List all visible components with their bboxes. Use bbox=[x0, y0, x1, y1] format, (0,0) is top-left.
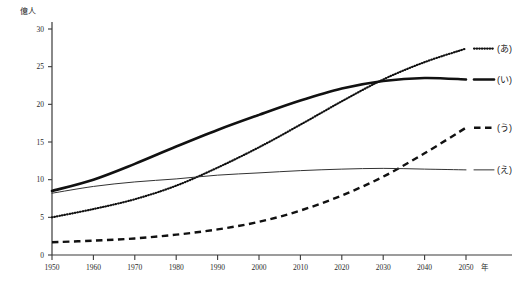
x-tick-label: 2000 bbox=[252, 263, 267, 272]
x-tick-label: 2010 bbox=[293, 263, 308, 272]
x-tick-label: 1980 bbox=[169, 263, 184, 272]
x-tick-group: 1950196019701980199020002010202020302040… bbox=[45, 255, 490, 272]
legend-label-1: (あ) bbox=[497, 44, 512, 54]
x-tick-label: 2030 bbox=[376, 263, 391, 272]
axes-group bbox=[52, 22, 512, 255]
legend-label-4: (え) bbox=[497, 165, 512, 175]
y-tick-group: 051015202530 bbox=[37, 25, 53, 260]
y-tick-label: 25 bbox=[37, 62, 45, 71]
x-tick-label: 2040 bbox=[417, 263, 432, 272]
y-tick-label: 0 bbox=[40, 251, 44, 260]
series-line-2 bbox=[52, 78, 466, 191]
y-axis-unit-label: 億人 bbox=[20, 6, 36, 16]
x-tick-label: 1990 bbox=[210, 263, 225, 272]
x-tick-label: 1970 bbox=[127, 263, 142, 272]
x-tick-label: 1960 bbox=[86, 263, 101, 272]
x-tick-label: 2050 bbox=[459, 263, 474, 272]
x-tick-label: 2020 bbox=[334, 263, 349, 272]
y-tick-label: 10 bbox=[37, 175, 45, 184]
series-line-3 bbox=[52, 128, 466, 243]
chart-canvas: 051015202530 195019601970198019902000201… bbox=[0, 0, 517, 292]
population-line-chart: 051015202530 195019601970198019902000201… bbox=[0, 0, 517, 292]
y-tick-label: 5 bbox=[40, 213, 44, 222]
x-axis-unit-label: 年 bbox=[481, 262, 489, 272]
legend-label-2: (い) bbox=[497, 75, 512, 85]
y-tick-label: 30 bbox=[37, 25, 45, 34]
x-tick-label: 1950 bbox=[45, 263, 60, 272]
y-tick-label: 20 bbox=[37, 100, 45, 109]
y-tick-label: 15 bbox=[37, 138, 45, 147]
series-group bbox=[52, 49, 466, 243]
series-line-1 bbox=[52, 49, 466, 218]
legend-group: (あ)(い)(う)(え) bbox=[474, 44, 512, 175]
legend-label-3: (う) bbox=[497, 123, 512, 133]
